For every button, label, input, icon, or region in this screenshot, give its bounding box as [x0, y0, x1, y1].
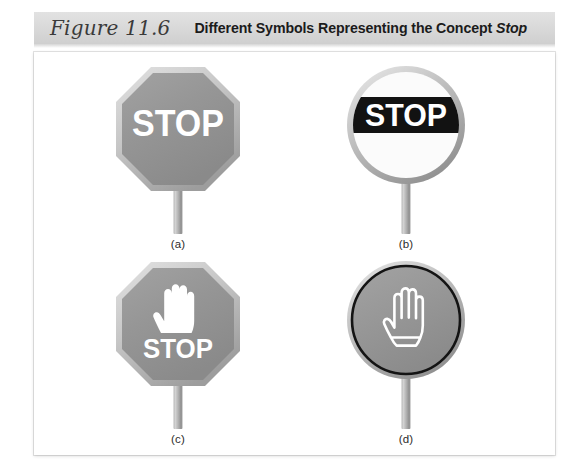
figure-panel: STOP (a) — [34, 52, 555, 455]
circle-stop-sign-b: STOP — [345, 64, 467, 186]
sign-stage-d — [306, 257, 506, 432]
octagon-stop-sign-a: STOP — [113, 64, 243, 194]
sign-stage-a: STOP — [78, 62, 278, 237]
sign-item-c: STOP (c) — [78, 257, 278, 445]
stop-word-c: STOP — [143, 334, 213, 364]
figure-title: Different Symbols Representing the Conce… — [194, 20, 527, 36]
stop-word-b: STOP — [365, 98, 447, 133]
sign-grid: STOP (a) — [34, 52, 555, 455]
figure-number-label: Figure 11.6 — [50, 16, 172, 40]
figure-title-emphasis: Stop — [496, 20, 527, 36]
sign-caption-a: (a) — [78, 238, 278, 250]
sign-caption-c: (c) — [78, 433, 278, 445]
sign-item-a: STOP (a) — [78, 62, 278, 250]
figure-title-main: Different Symbols Representing the Conce… — [194, 20, 496, 36]
sign-item-d: (d) — [306, 257, 506, 445]
figure-root: Figure 11.6 Different Symbols Representi… — [0, 0, 569, 470]
sign-caption-b: (b) — [306, 238, 506, 250]
figure-header-band: Figure 11.6 Different Symbols Representi… — [34, 12, 555, 44]
sign-caption-d: (d) — [306, 433, 506, 445]
sign-item-b: STOP (b) — [306, 62, 506, 250]
circle-hand-sign-d — [345, 259, 467, 381]
octagon-hand-stop-sign-c: STOP — [113, 259, 243, 389]
circle-dark-outline-d — [352, 266, 460, 374]
stop-word-a: STOP — [132, 103, 224, 144]
sign-stage-b: STOP — [306, 62, 506, 237]
sign-stage-c: STOP — [78, 257, 278, 432]
